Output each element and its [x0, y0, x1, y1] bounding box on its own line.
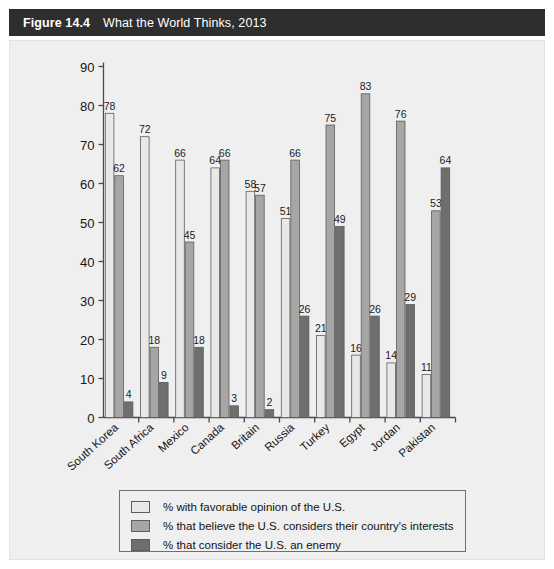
legend-label-favorable: % with favorable opinion of the U.S.: [163, 501, 345, 513]
figure-title: What the World Thinks, 2013: [103, 16, 266, 30]
legend-swatch-favorable: [131, 501, 150, 513]
legend-label-considers-interests: % that believe the U.S. considers their …: [163, 520, 453, 532]
legend-item-considers-interests: % that believe the U.S. considers their …: [131, 517, 465, 534]
figure-number: Figure 14.4: [23, 16, 90, 30]
figure-header: Figure 14.4 What the World Thinks, 2013: [9, 9, 545, 36]
legend-label-enemy: % that consider the U.S. an enemy: [163, 539, 341, 551]
chart-legend: % with favorable opinion of the U.S. % t…: [119, 490, 466, 552]
legend-swatch-considers-interests: [131, 520, 150, 532]
legend-item-favorable: % with favorable opinion of the U.S.: [131, 498, 465, 515]
figure-body-panel: [9, 40, 545, 560]
legend-swatch-enemy: [131, 539, 150, 551]
legend-item-enemy: % that consider the U.S. an enemy: [131, 536, 465, 553]
figure-page: Figure 14.4 What the World Thinks, 2013 …: [0, 0, 554, 569]
